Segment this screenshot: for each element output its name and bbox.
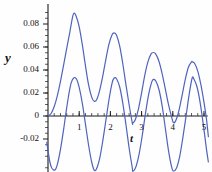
lower-oscillating-curve bbox=[47, 77, 209, 171]
x-axis-label: t bbox=[130, 132, 133, 144]
y-tick-label-0-02: 0.02 bbox=[5, 87, 39, 97]
data-series-layer bbox=[47, 13, 209, 171]
x-tick-label-4: 4 bbox=[167, 122, 179, 132]
y-tick-label-0-08: 0.08 bbox=[5, 18, 39, 28]
y-tick-label-0-04: 0.04 bbox=[5, 64, 39, 74]
y-tick-label-0: 0 bbox=[5, 110, 39, 120]
x-tick-label-5: 5 bbox=[198, 122, 210, 132]
y-tick-label-0-06: 0.06 bbox=[5, 41, 39, 51]
upper-envelope-curve bbox=[48, 13, 208, 136]
chart-container: y t 0.080.060.040.020-0.02 12345 bbox=[0, 0, 212, 172]
x-tick-label-3: 3 bbox=[136, 122, 148, 132]
y-tick-label--0-02: -0.02 bbox=[5, 133, 39, 143]
x-tick-label-2: 2 bbox=[104, 122, 116, 132]
x-tick-label-1: 1 bbox=[73, 122, 85, 132]
